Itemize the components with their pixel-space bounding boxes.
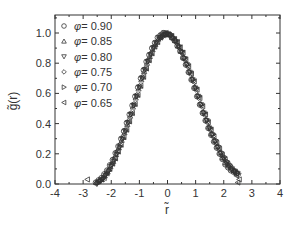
legend-label: φ= 0.75 [74, 66, 112, 78]
y-axis-label: g̃(r) [6, 92, 20, 111]
legend-item: φ= 0.70 [62, 81, 112, 93]
y-tick-label: 0.6 [36, 87, 51, 99]
series-triangle-left [96, 30, 241, 183]
series-triangle-down [94, 31, 240, 187]
x-tick-label: -2 [106, 187, 116, 199]
legend-label: φ= 0.65 [74, 97, 112, 109]
x-tick-label: 2 [221, 187, 227, 199]
data-point [85, 177, 90, 182]
triangle-down-marker-icon [62, 55, 67, 59]
series-diamond [95, 30, 241, 185]
triangle-up-marker-icon [62, 39, 67, 43]
y-tick-label: 1.0 [36, 27, 51, 39]
x-tick-label: 4 [277, 187, 283, 199]
x-tick-label: -1 [134, 187, 144, 199]
legend: φ= 0.90φ= 0.85φ= 0.80φ= 0.75φ= 0.70φ= 0.… [62, 20, 112, 109]
y-tick-label: 0.8 [36, 57, 51, 69]
legend-label: φ= 0.85 [74, 35, 112, 47]
legend-item: φ= 0.90 [62, 20, 112, 32]
y-tick-label: 0.2 [36, 148, 51, 160]
x-axis-label: r̃ [163, 202, 169, 217]
legend-label: φ= 0.70 [74, 81, 112, 93]
legend-label: φ= 0.90 [74, 20, 112, 32]
legend-item: φ= 0.65 [62, 97, 112, 109]
triangle-right-marker-icon [62, 85, 66, 90]
triangle-left-marker-icon [62, 100, 66, 105]
legend-item: φ= 0.85 [62, 35, 112, 47]
legend-item: φ= 0.80 [62, 51, 112, 63]
legend-label: φ= 0.80 [74, 51, 112, 63]
y-tick-label: 0.4 [36, 118, 51, 130]
diamond-marker-icon [62, 70, 67, 75]
series-triangle-up [94, 32, 240, 185]
circle-marker-icon [62, 24, 67, 29]
series-triangle-right [96, 32, 241, 185]
x-tick-label: 0 [164, 187, 170, 199]
y-tick-label: 0.0 [36, 178, 51, 190]
legend-item: φ= 0.75 [62, 66, 112, 78]
x-tick-label: 1 [193, 187, 199, 199]
scatter-chart: 0.00.20.40.60.81.0 -4-3-2-101234 φ= 0.90… [0, 0, 295, 227]
x-tick-label: 3 [249, 187, 255, 199]
x-tick-label: -3 [78, 187, 88, 199]
x-tick-label: -4 [50, 187, 60, 199]
